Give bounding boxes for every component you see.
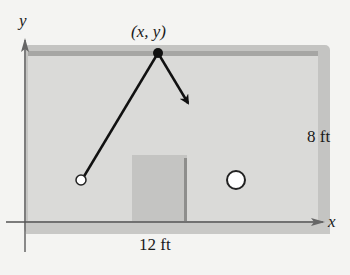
y-axis-label: y	[19, 11, 27, 31]
height-label: 8 ft	[307, 127, 330, 147]
x-axis-label: x	[328, 212, 336, 232]
start-ball	[76, 175, 86, 185]
target-ball	[227, 171, 245, 189]
bottom-rail	[26, 222, 330, 234]
billiards-diagram	[0, 0, 350, 275]
top-rail-stripe	[28, 51, 318, 56]
obstacle-edge	[184, 158, 187, 221]
bounce-point-label: (x, y)	[131, 22, 166, 42]
obstacle	[132, 155, 187, 221]
width-label: 12 ft	[139, 235, 171, 255]
bounce-point	[153, 48, 163, 58]
